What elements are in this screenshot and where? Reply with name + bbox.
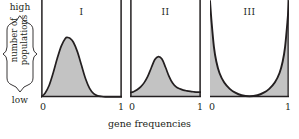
panel-I-tick-1: 1 xyxy=(118,101,124,112)
y-axis-title-line-1: number of xyxy=(9,1,19,79)
panel-III-tick-1: 1 xyxy=(285,101,291,112)
panel-III-label: III xyxy=(210,7,289,17)
distribution-panel-I: I 0 1 xyxy=(41,0,122,118)
panel-I-tick-0: 0 xyxy=(40,101,46,112)
distribution-panel-II: II 0 1 xyxy=(130,0,201,118)
y-axis-group: high number of populations low xyxy=(0,0,40,110)
distribution-panel-III: III 0 1 xyxy=(210,0,289,118)
y-axis-title-line-2: populations xyxy=(19,1,29,79)
panel-II-tick-1: 1 xyxy=(197,101,203,112)
y-axis-low-label: low xyxy=(0,95,40,105)
y-axis-title: number of populations xyxy=(9,1,31,79)
panel-I-label: I xyxy=(41,7,122,17)
gene-frequency-distributions-figure: high number of populations low I 0 1 xyxy=(0,0,299,139)
x-axis-title: gene frequencies xyxy=(0,118,299,129)
panel-III-tick-0: 0 xyxy=(209,101,215,112)
panel-II-tick-0: 0 xyxy=(129,101,135,112)
panel-II-label: II xyxy=(130,7,201,17)
